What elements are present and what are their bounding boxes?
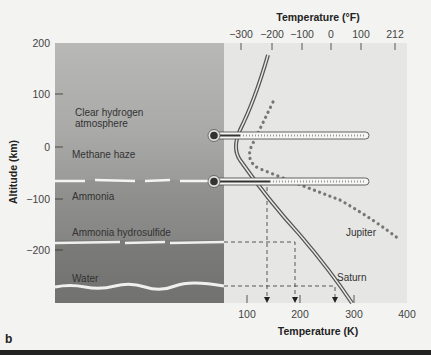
top-axis-title: Temperature (°F) (276, 11, 359, 23)
f-tick-minus-300: −300 (229, 28, 253, 40)
f-tick-minus-100: −100 (290, 28, 314, 40)
label-water: Water (72, 273, 99, 284)
x-tick-200: 200 (291, 308, 309, 320)
label-ammonia: Ammonia (72, 191, 115, 202)
label-clear-hydrogen: Clear hydrogen (75, 107, 143, 118)
y-tick-200: 200 (32, 37, 50, 49)
panel-label: b (5, 332, 12, 346)
saturn-label: Saturn (337, 272, 366, 283)
y-axis: 200 100 0 −100 −200 Altitude (km) (7, 37, 63, 256)
y-tick-100: 100 (32, 88, 50, 100)
x-tick-400: 400 (398, 308, 416, 320)
x-tick-300: 300 (345, 308, 363, 320)
bottom-divider (0, 350, 431, 355)
f-tick-212: 212 (386, 28, 404, 40)
y-tick-0: 0 (44, 141, 50, 153)
chart-svg: Clear hydrogen atmosphere Methane haze A… (0, 0, 431, 355)
y-tick-minus-200: −200 (26, 244, 50, 256)
cloud-layer-ammonia-hydrosulfide (55, 242, 224, 243)
chart-figure: Clear hydrogen atmosphere Methane haze A… (0, 0, 431, 355)
x-tick-100: 100 (238, 308, 256, 320)
jupiter-label: Jupiter (346, 227, 377, 238)
f-tick-minus-200: −200 (260, 28, 284, 40)
x-axis-title: Temperature (K) (278, 325, 358, 337)
label-ammonia-hydrosulfide: Ammonia hydrosulfide (72, 227, 171, 238)
y-axis-title: Altitude (km) (7, 140, 19, 204)
f-tick-0: 0 (328, 28, 334, 40)
label-atmosphere: atmosphere (75, 118, 128, 129)
y-tick-minus-100: −100 (26, 193, 50, 205)
label-methane-haze: Methane haze (72, 149, 136, 160)
f-tick-100: 100 (352, 28, 370, 40)
